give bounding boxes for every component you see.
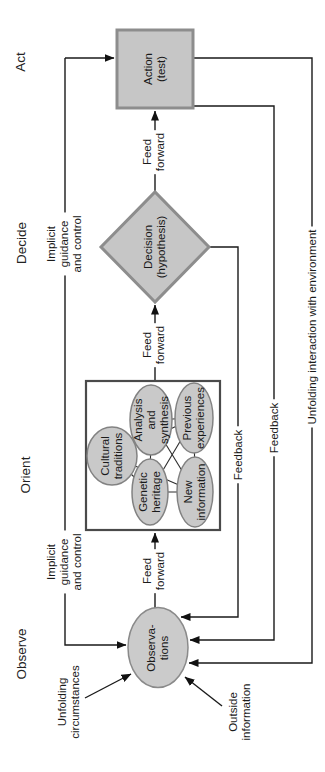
new-information-label: New information (182, 464, 208, 521)
environment-interaction-line (189, 58, 312, 663)
implicit-guidance-label-observe: Implicit guidance and control (45, 531, 84, 594)
genetic-heritage-label: Genetic heritage (137, 471, 163, 513)
implicit-guidance-label-decide: Implicit guidance and control (45, 213, 84, 276)
feedback-label-decision: Feedback (232, 427, 245, 484)
unfolding-circumstances-arrow (85, 674, 131, 698)
feedback-line-action (190, 106, 274, 640)
phase-label-observe: Observe (14, 628, 29, 679)
environment-interaction-label: Unfolding interaction with environment (306, 227, 319, 428)
diagram-stage: Observe Orient Decide Act Observa- tions… (0, 0, 325, 772)
decision-label: Decision (hypothesis) (142, 216, 168, 279)
ooda-loop-diagram: Observe Orient Decide Act Observa- tions… (0, 0, 325, 772)
unfolding-circumstances-label: Unfolding circumstances (56, 665, 82, 739)
phase-label-orient: Orient (18, 457, 33, 494)
analysis-synthesis-label: Analysis and synthesis (132, 396, 171, 444)
previous-experiences-label: Previous experiences (181, 387, 207, 449)
feedback-label-action: Feedback (268, 400, 281, 457)
phase-label-act: Act (13, 52, 28, 72)
observations-label: Observa- tions (145, 624, 171, 671)
feed-forward-label-3: Feed forward (141, 130, 167, 174)
outside-information-label: Outside information (227, 684, 253, 741)
feed-forward-label-1: Feed forward (141, 549, 167, 593)
cultural-traditions-label: Cultural traditions (99, 433, 125, 480)
outside-information-arrow (185, 677, 222, 706)
action-label: Action (test) (142, 53, 168, 85)
phase-label-decide: Decide (14, 222, 29, 264)
feed-forward-label-2: Feed forward (141, 323, 167, 367)
